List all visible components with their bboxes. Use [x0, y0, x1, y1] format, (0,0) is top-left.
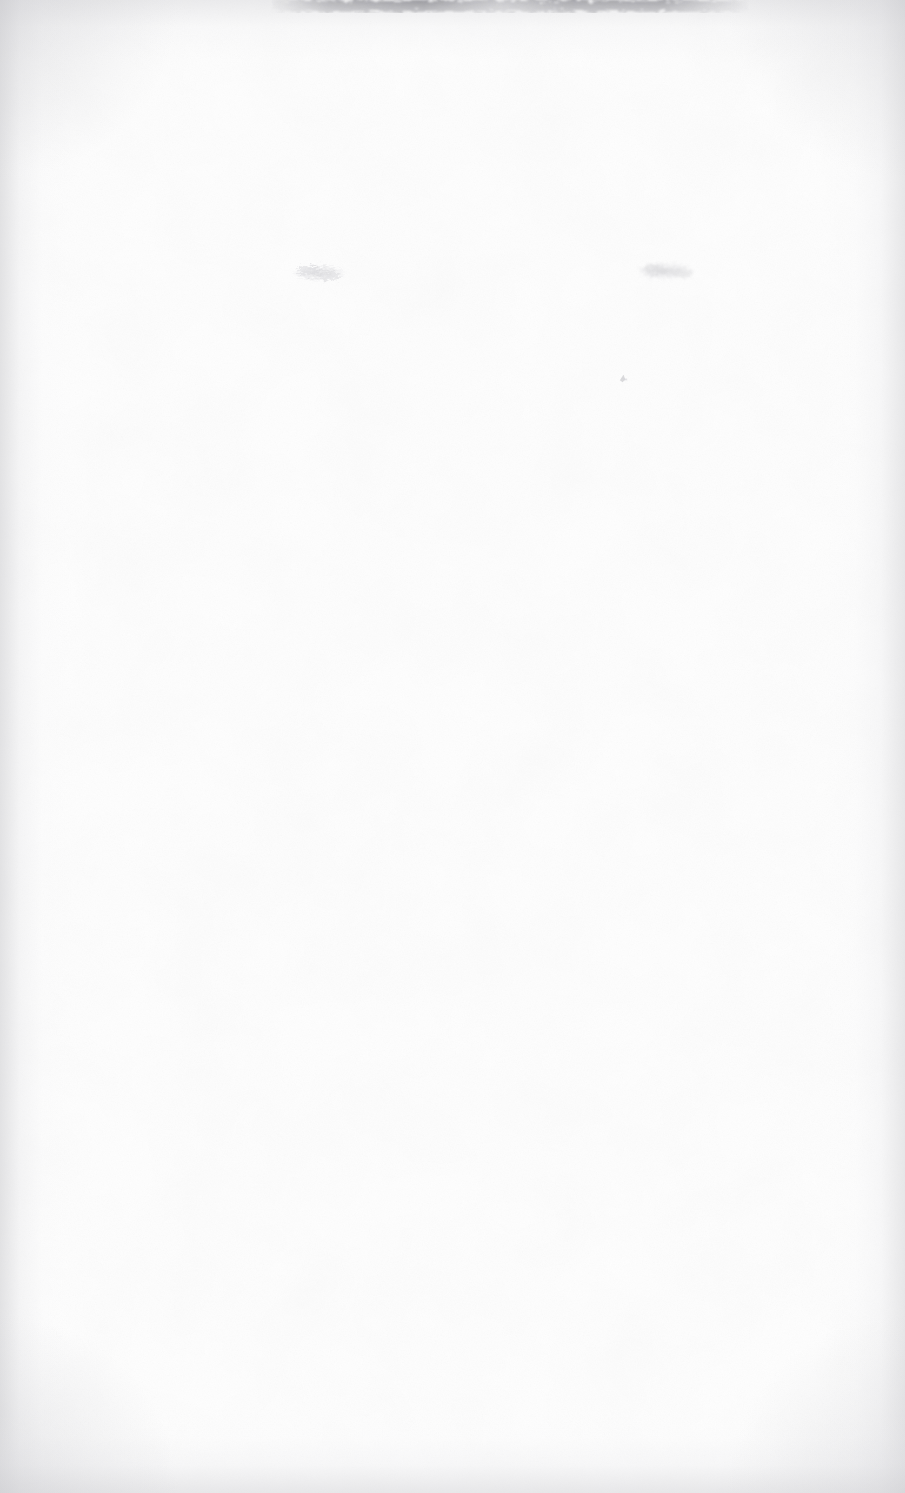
- paper-background: [0, 0, 905, 1493]
- scanned-page: [0, 0, 905, 1493]
